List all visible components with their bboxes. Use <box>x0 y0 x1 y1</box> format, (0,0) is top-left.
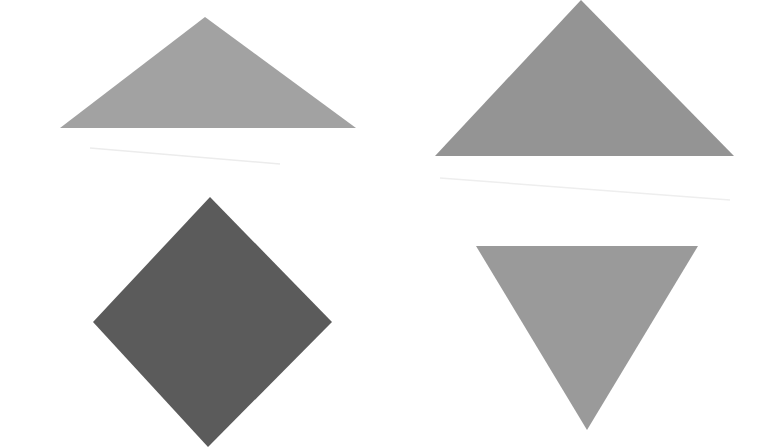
shapes-canvas <box>0 0 768 447</box>
background <box>0 0 768 447</box>
